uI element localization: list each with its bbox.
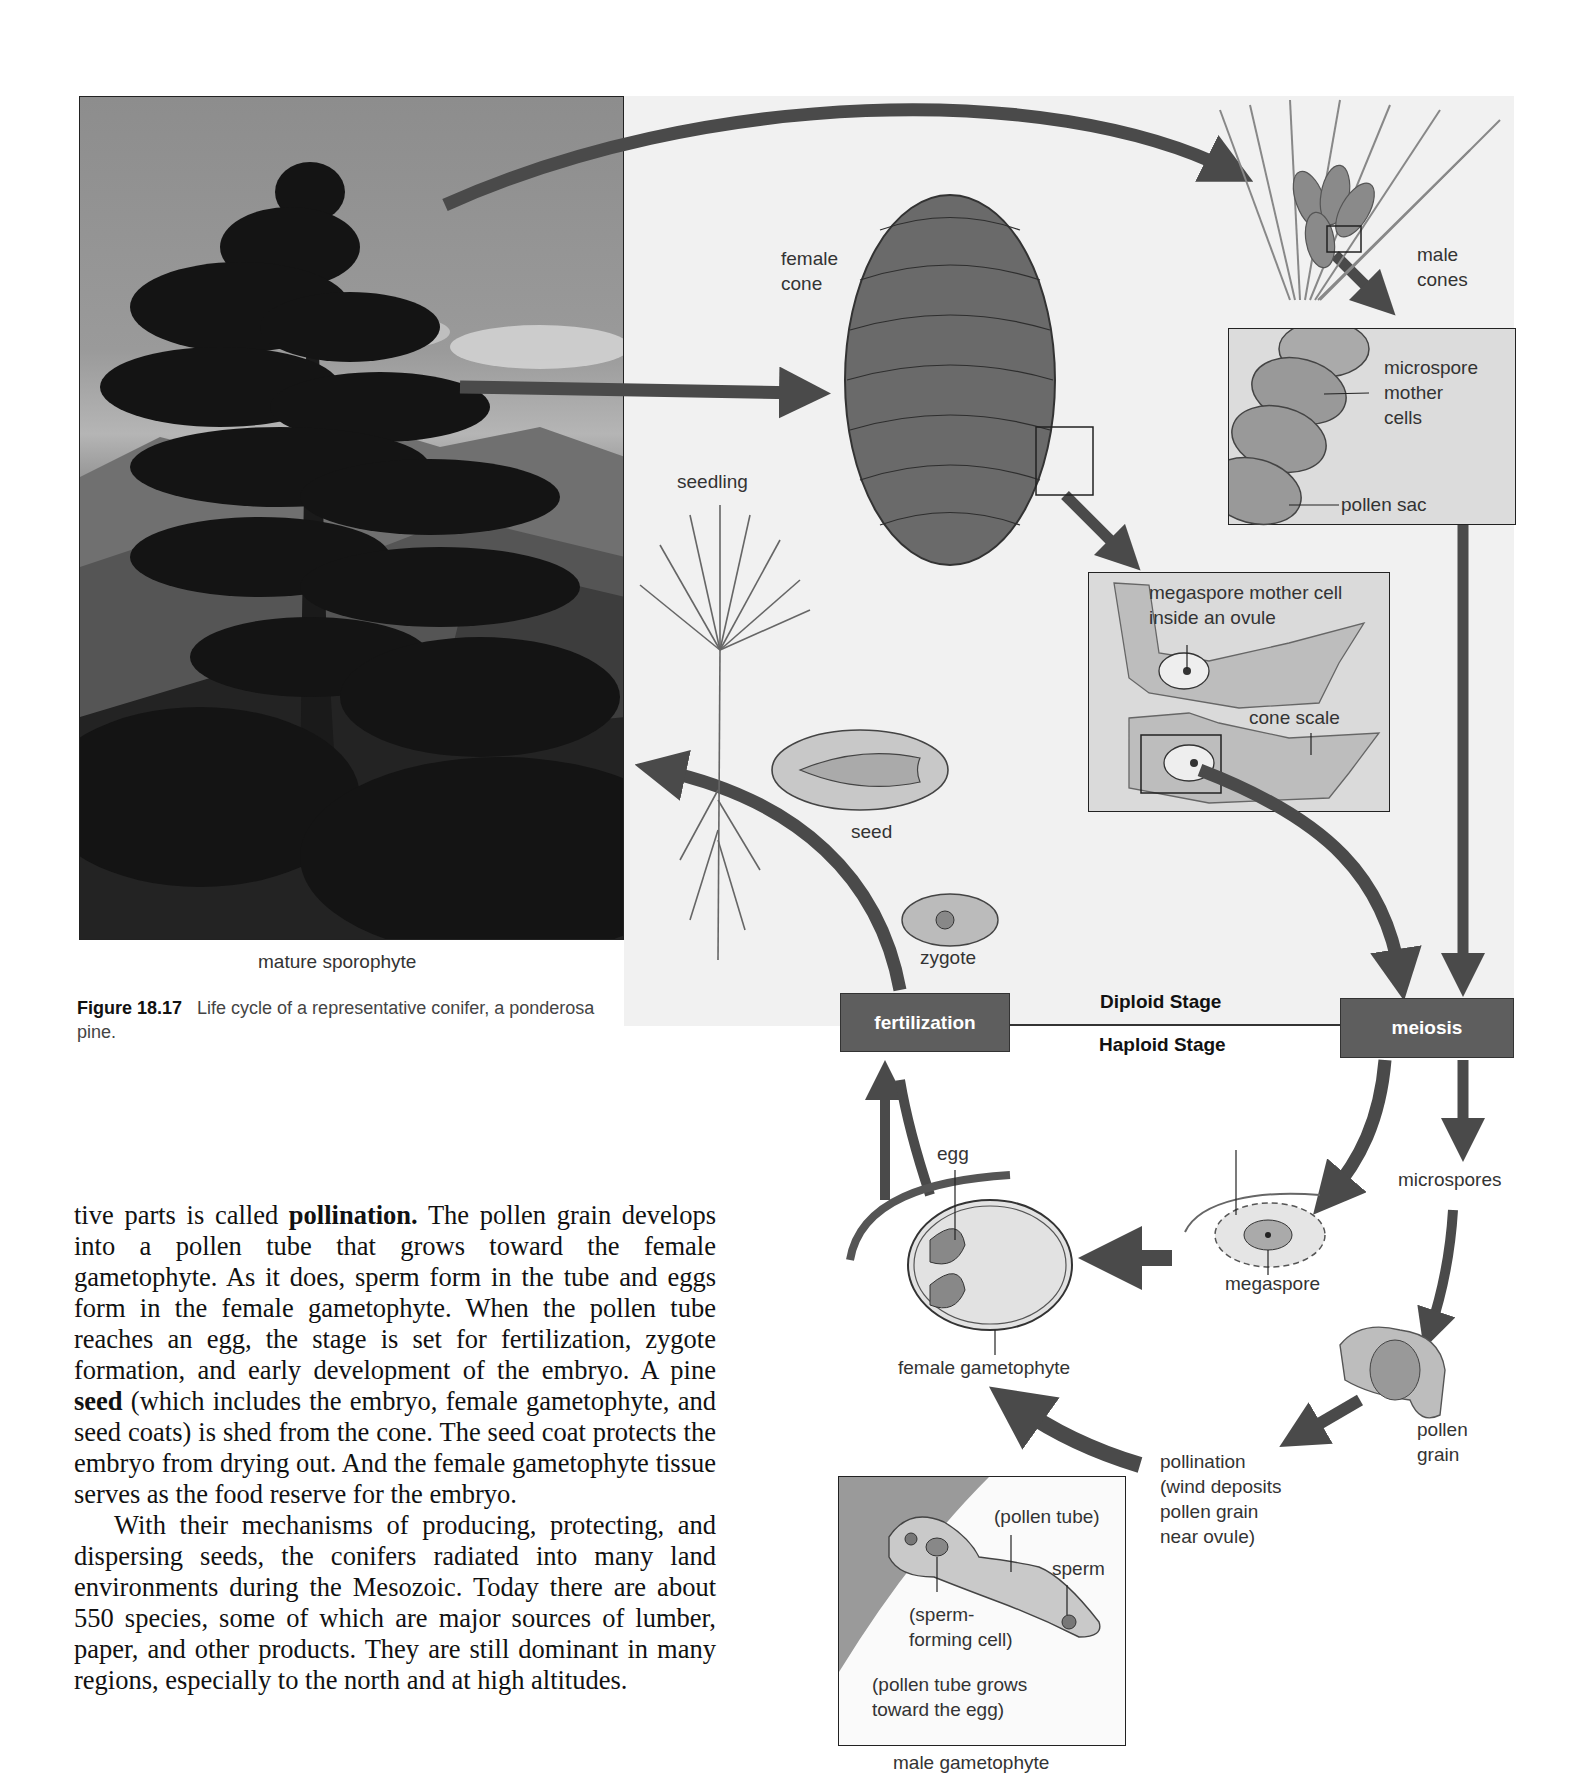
figure-number: Figure 18.17: [77, 998, 182, 1018]
label-sperm: sperm: [1052, 1557, 1105, 1581]
diploid-stage-label: Diploid Stage: [1100, 991, 1221, 1013]
paragraph-2: With their mechanisms of producing, prot…: [74, 1510, 716, 1696]
label-pollination-4: near ovule): [1160, 1525, 1255, 1549]
label-male-cones-2: cones: [1417, 268, 1468, 292]
label-male-gametophyte: male gametophyte: [893, 1751, 1049, 1775]
stage-divider-line: [1010, 1024, 1340, 1026]
label-megaspore: megaspore: [1225, 1272, 1320, 1296]
mature-sporophyte-photo: [79, 96, 624, 940]
label-pollen-sac: pollen sac: [1341, 493, 1427, 517]
male-gametophyte-inset: (pollen tube) sperm (sperm- forming cell…: [838, 1476, 1126, 1746]
label-zygote: zygote: [920, 946, 976, 970]
label-pollination-2: (wind deposits: [1160, 1475, 1281, 1499]
label-pollen-tube: (pollen tube): [994, 1505, 1100, 1529]
label-inside-an-ovule: inside an ovule: [1149, 606, 1276, 630]
label-pollination-3: pollen grain: [1160, 1500, 1258, 1524]
label-pollen-grain-2: grain: [1417, 1443, 1459, 1467]
label-microspore: microspore: [1384, 356, 1478, 380]
label-pollen-grain-1: pollen: [1417, 1418, 1468, 1442]
diploid-stage-background: [624, 96, 1514, 1026]
label-tube-grows-1: (pollen tube grows: [872, 1673, 1027, 1697]
label-female-cone-1: female: [781, 247, 838, 271]
haploid-stage-label: Haploid Stage: [1099, 1034, 1226, 1056]
label-pollination-1: pollination: [1160, 1450, 1246, 1474]
label-female-cone-2: cone: [781, 272, 822, 296]
label-sperm-forming-2: forming cell): [909, 1628, 1012, 1652]
pollen-sac-inset: microspore mother cells pollen sac: [1228, 328, 1516, 525]
p1-text: tive parts is called: [74, 1200, 289, 1230]
meiosis-box: meiosis: [1340, 998, 1514, 1058]
label-female-gametophyte: female gametophyte: [898, 1356, 1070, 1380]
label-cells: cells: [1384, 406, 1422, 430]
label-egg: egg: [937, 1142, 969, 1166]
label-mother: mother: [1384, 381, 1443, 405]
figure-caption: Figure 18.17 Life cycle of a representat…: [77, 996, 637, 1044]
megaspore-mother-cell-inset: megaspore mother cell inside an ovule co…: [1088, 572, 1390, 812]
body-text: tive parts is called pollination. The po…: [74, 1200, 716, 1696]
label-seedling: seedling: [677, 470, 748, 494]
label-megaspore-mother-cell: megaspore mother cell: [1149, 581, 1342, 605]
label-seed: seed: [851, 820, 892, 844]
label-cone-scale: cone scale: [1249, 706, 1340, 730]
term-seed: seed: [74, 1386, 123, 1416]
pine-tree-illustration: [80, 97, 624, 940]
p1-text: (which includes the embryo, female gamet…: [74, 1386, 716, 1509]
label-sperm-forming-1: (sperm-: [909, 1603, 974, 1627]
fertilization-box: fertilization: [840, 993, 1010, 1052]
paragraph-1: tive parts is called pollination. The po…: [74, 1200, 716, 1510]
term-pollination: pollination.: [289, 1200, 418, 1230]
photo-label-mature-sporophyte: mature sporophyte: [258, 950, 416, 974]
label-tube-grows-2: toward the egg): [872, 1698, 1004, 1722]
label-microspores: microspores: [1398, 1168, 1501, 1192]
label-male-cones-1: male: [1417, 243, 1458, 267]
